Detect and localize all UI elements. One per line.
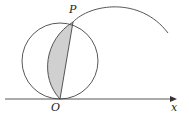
trajectory-curve bbox=[73, 7, 168, 33]
label-x: x bbox=[171, 102, 177, 113]
diagram-canvas bbox=[0, 0, 189, 115]
label-p: P bbox=[69, 4, 76, 15]
diagram: P O x bbox=[0, 0, 189, 115]
label-o: O bbox=[51, 102, 60, 113]
shaded-region bbox=[48, 22, 73, 99]
